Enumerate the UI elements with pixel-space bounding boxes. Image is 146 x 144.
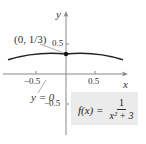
formula-denominator: x² + 3 — [109, 110, 133, 122]
x-tick-label-pos: 0.5 — [88, 77, 99, 86]
point-label: (0, 1/3) — [14, 34, 46, 45]
point-marker — [64, 52, 68, 56]
point-label-text: (0, 1/3) — [14, 33, 46, 45]
formula-lhs: f(x) = — [78, 104, 103, 116]
asymptote-label: y = 0 — [31, 92, 54, 103]
formula-fraction: 1 x² + 3 — [109, 97, 133, 122]
formula-numerator: 1 — [117, 97, 126, 110]
function-formula: f(x) = 1 x² + 3 — [78, 97, 134, 122]
x-tick-label-neg: −0.5 — [24, 77, 40, 86]
y-tick-label-pos: 0.5 — [52, 39, 63, 48]
y-axis-label: y — [56, 9, 61, 20]
x-axis-label: x — [123, 79, 128, 90]
